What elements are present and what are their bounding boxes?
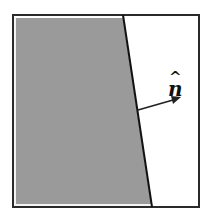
normal-label: ^ n xyxy=(166,72,188,98)
diagram-canvas xyxy=(0,0,217,223)
normal-symbol: n xyxy=(168,77,183,101)
normal-vector-shaft xyxy=(138,100,173,110)
shaded-region xyxy=(16,18,151,204)
